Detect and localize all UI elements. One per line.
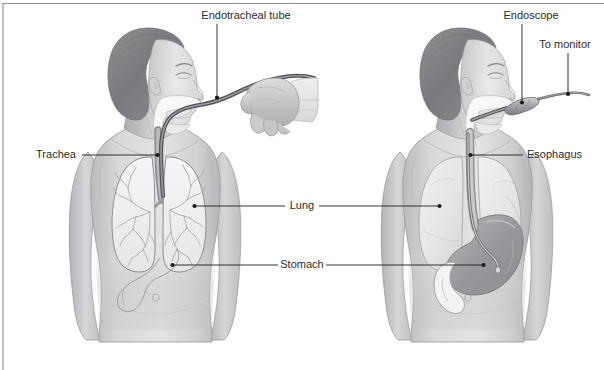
trachea-label-text: Trachea (36, 148, 77, 160)
endotracheal-intubation-panel: Endotracheal tube Trachea (36, 9, 320, 342)
medical-illustration-figure: Endotracheal tube Trachea (0, 0, 604, 370)
endoscopy-panel: Endoscope To monitor Esophagus (381, 9, 591, 342)
stomach-label-text: Stomach (280, 258, 323, 270)
clinician-hand (241, 78, 320, 136)
endoscope-label-text: Endoscope (503, 9, 558, 21)
endotracheal-tube-label-text: Endotracheal tube (201, 9, 290, 21)
label-to-monitor: To monitor (539, 38, 591, 96)
esophagus-label-text: Esophagus (527, 148, 583, 160)
illustration-canvas: Endotracheal tube Trachea (0, 0, 604, 370)
lung-label-text: Lung (290, 199, 314, 211)
label-endoscope: Endoscope (503, 9, 558, 105)
to-monitor-label-text: To monitor (539, 38, 591, 50)
